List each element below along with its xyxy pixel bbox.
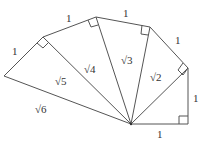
hyp-sqrt3-line (131, 27, 150, 124)
right-angle-marker-5 (37, 43, 48, 48)
origin-point (130, 123, 132, 125)
label-hyp-sqrt3: √3 (121, 54, 133, 66)
label-leg4: 1 (123, 7, 129, 19)
label-leg6: 1 (12, 45, 18, 57)
label-leg3: 1 (175, 34, 181, 46)
label-right-leg: 1 (193, 92, 199, 104)
label-hyp-sqrt5: √5 (55, 75, 67, 87)
label-hyp-sqrt4: √4 (84, 63, 96, 75)
label-hyp-sqrt2: √2 (150, 71, 162, 83)
right-angle-marker-4 (88, 20, 98, 27)
right-angle-marker-1 (179, 116, 188, 124)
label-bottom-leg: 1 (157, 128, 163, 140)
label-hyp-sqrt6: √6 (35, 103, 47, 115)
spiral-diagram: 1 1 1 1 1 1 √2 √3 √4 √5 √6 (0, 0, 208, 147)
hyp-sqrt4-line (96, 17, 131, 124)
label-leg5: 1 (66, 12, 72, 24)
